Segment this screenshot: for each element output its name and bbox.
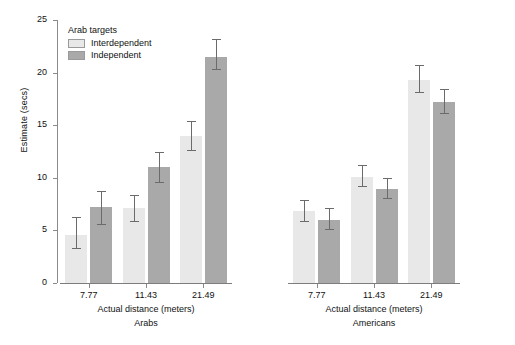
- error-bar-cap-lower: [155, 182, 164, 183]
- legend-swatch-icon: [68, 51, 85, 60]
- x-tick-mark: [317, 284, 318, 288]
- legend-swatch-icon: [68, 39, 85, 48]
- x-tick-mark: [431, 284, 432, 288]
- error-bar-cap-upper: [415, 65, 424, 66]
- y-axis-title: Estimate (secs): [19, 50, 29, 190]
- y-tick-mark: [53, 230, 57, 231]
- error-bar-cap-lower: [72, 248, 81, 249]
- bar-independent-21.49: [433, 102, 455, 283]
- x-axis-title: Actual distance (meters): [288, 304, 460, 314]
- error-bar-stem: [159, 152, 160, 183]
- x-tick-label: 11.43: [124, 290, 168, 300]
- panel-title-arabs: Arabs: [60, 318, 232, 328]
- error-bar-cap-upper: [300, 200, 309, 201]
- y-tick-mark: [53, 283, 57, 284]
- x-tick-label: 21.49: [409, 290, 453, 300]
- error-bar-stem: [387, 178, 388, 198]
- error-bar-cap-upper: [130, 195, 139, 196]
- legend: Arab targetsInterdependentIndependent: [68, 25, 152, 62]
- y-tick-mark: [53, 125, 57, 126]
- error-bar-stem: [444, 89, 445, 112]
- y-tick-mark: [53, 73, 57, 74]
- error-bar-cap-lower: [130, 221, 139, 222]
- x-tick-mark: [89, 284, 90, 288]
- x-tick-label: 7.77: [295, 290, 339, 300]
- error-bar-cap-lower: [440, 113, 449, 114]
- error-bar-cap-lower: [358, 186, 367, 187]
- error-bar-cap-upper: [212, 39, 221, 40]
- error-bar-stem: [191, 121, 192, 150]
- error-bar-cap-upper: [187, 121, 196, 122]
- error-bar-cap-lower: [212, 69, 221, 70]
- error-bar-cap-lower: [187, 150, 196, 151]
- bar-interdependent-21.49: [408, 80, 430, 283]
- error-bar-cap-upper: [97, 191, 106, 192]
- bar-independent-11.43: [148, 167, 170, 283]
- bar-interdependent-11.43: [351, 177, 373, 283]
- bar-interdependent-21.49: [180, 136, 202, 283]
- x-tick-mark: [146, 284, 147, 288]
- x-tick-label: 7.77: [67, 290, 111, 300]
- error-bar-stem: [134, 195, 135, 221]
- y-tick-label: 0: [25, 277, 47, 287]
- error-bar-cap-upper: [72, 217, 81, 218]
- error-bar-cap-lower: [383, 198, 392, 199]
- error-bar-stem: [362, 165, 363, 186]
- error-bar-stem: [101, 191, 102, 224]
- x-tick-mark: [203, 284, 204, 288]
- error-bar-cap-lower: [325, 229, 334, 230]
- error-bar-cap-upper: [325, 208, 334, 209]
- error-bar-cap-upper: [440, 89, 449, 90]
- bar-independent-21.49: [205, 57, 227, 283]
- x-tick-label: 21.49: [181, 290, 225, 300]
- x-axis-title: Actual distance (meters): [60, 304, 232, 314]
- error-bar-cap-lower: [415, 92, 424, 93]
- bar-chart-figure: 0510152025Estimate (secs)7.7711.4321.49A…: [0, 0, 515, 345]
- legend-item-independent[interactable]: Independent: [68, 50, 152, 60]
- y-tick-mark: [53, 178, 57, 179]
- legend-item-label: Independent: [91, 50, 141, 60]
- panel-title-americans: Americans: [288, 318, 460, 328]
- legend-item-label: Interdependent: [91, 38, 152, 48]
- bar-independent-11.43: [376, 189, 398, 283]
- y-tick-label: 25: [25, 14, 47, 24]
- error-bar-stem: [216, 39, 217, 70]
- error-bar-stem: [419, 65, 420, 91]
- x-tick-label: 11.43: [352, 290, 396, 300]
- y-axis-line: [57, 20, 58, 283]
- error-bar-stem: [76, 217, 77, 249]
- error-bar-cap-lower: [300, 221, 309, 222]
- error-bar-stem: [304, 200, 305, 221]
- x-tick-mark: [374, 284, 375, 288]
- legend-item-interdependent[interactable]: Interdependent: [68, 38, 152, 48]
- error-bar-cap-upper: [155, 152, 164, 153]
- y-tick-label: 5: [25, 224, 47, 234]
- error-bar-stem: [329, 208, 330, 229]
- error-bar-cap-upper: [358, 165, 367, 166]
- legend-title: Arab targets: [68, 25, 152, 35]
- error-bar-cap-lower: [97, 224, 106, 225]
- y-tick-mark: [53, 20, 57, 21]
- error-bar-cap-upper: [383, 178, 392, 179]
- bar-interdependent-7.77: [293, 211, 315, 283]
